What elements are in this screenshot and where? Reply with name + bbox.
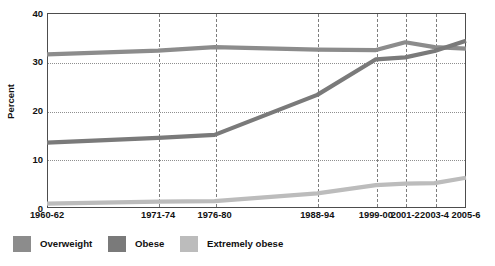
x-tick-label: 1971-74 (141, 210, 175, 221)
legend-label: Obese (135, 238, 164, 250)
legend-label: Overweight (40, 238, 92, 250)
legend-item-obese[interactable]: Obese (108, 236, 164, 252)
legend-swatch-icon (108, 236, 126, 252)
line-chart: Percent 010203040 1960-621971-741976-801… (0, 0, 495, 266)
y-tick-label: 30 (3, 57, 43, 66)
legend-swatch-icon (13, 236, 31, 252)
chart-legend: OverweightObeseExtremely obese (0, 234, 495, 258)
series-layer (47, 13, 466, 208)
x-tick-label: 1999-00 (359, 210, 393, 221)
x-tick-label: 1976-80 (198, 210, 232, 221)
legend-item-overweight[interactable]: Overweight (13, 236, 92, 252)
legend-item-extremely-obese[interactable]: Extremely obese (180, 236, 283, 252)
x-tick-label: 1960-62 (30, 210, 64, 221)
series-line-extremely-obese (47, 178, 466, 204)
y-tick-label: 40 (3, 9, 43, 18)
x-tick-label: 2003-4 (420, 210, 449, 221)
y-tick-label: 10 (3, 155, 43, 164)
legend-label: Extremely obese (207, 238, 283, 250)
x-tick-label: 1988-94 (300, 210, 334, 221)
x-tick-label: 2001-2 (391, 210, 420, 221)
series-line-obese (47, 41, 466, 143)
legend-swatch-icon (180, 236, 198, 252)
x-axis-tick-labels: 1960-621971-741976-801988-941999-002001-… (0, 210, 495, 228)
series-line-overweight (47, 42, 466, 54)
y-tick-label: 20 (3, 106, 43, 115)
x-tick-label: 2005-6 (452, 210, 481, 221)
